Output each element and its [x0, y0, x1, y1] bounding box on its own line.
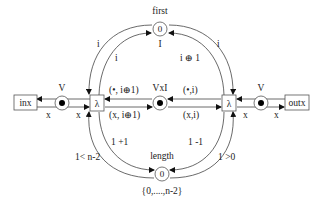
transition-right-label: λ [227, 99, 232, 109]
place-length-type: {0,....,n-2} [142, 186, 183, 196]
place-length-label: length [150, 151, 174, 161]
label-center-right-bottom: (x,i) [183, 110, 199, 121]
label-first-left-inner: i [115, 53, 118, 63]
label-rightv-outx: x [274, 110, 279, 120]
label-left-center-bottom: (x, i⊕1) [109, 110, 140, 121]
label-left-inx: x [46, 110, 51, 120]
label-right-length: 1 -1 [188, 137, 203, 147]
place-first-label: first [152, 6, 168, 16]
arc-first-to-left-outer [89, 25, 152, 94]
token-center [157, 100, 163, 106]
label-left-length: 1 +1 [111, 137, 128, 147]
place-first-type: I [158, 39, 161, 49]
label-length-right: 1 >0 [218, 152, 235, 162]
place-first-token: 0 [158, 24, 163, 34]
label-leftv-left: x [76, 110, 81, 120]
label-right-first: i ⊕ 1 [180, 53, 200, 63]
token-left-v [59, 100, 65, 106]
label-right-rightv: x [243, 110, 248, 120]
transition-left-label: λ [95, 99, 100, 109]
petri-net-diagram: inx outx V V VxI λ λ 0 first I 0 length … [0, 0, 324, 206]
label-first-right-outer: i [217, 39, 220, 49]
port-outx-label: outx [289, 98, 306, 108]
label-length-left: 1< n-2 [75, 152, 100, 162]
label-center-left-top: (•, i⊕1) [109, 85, 139, 96]
label-first-left-outer: i [97, 39, 100, 49]
label-right-center-top: (•,i) [183, 85, 198, 96]
arc-first-to-right-outer [169, 25, 233, 94]
port-inx-label: inx [19, 98, 31, 108]
place-length-token: 0 [160, 169, 165, 179]
place-left-v-label: V [59, 83, 66, 93]
token-right-v [258, 100, 264, 106]
place-right-v-label: V [258, 83, 265, 93]
place-center-label: VxI [153, 83, 168, 93]
